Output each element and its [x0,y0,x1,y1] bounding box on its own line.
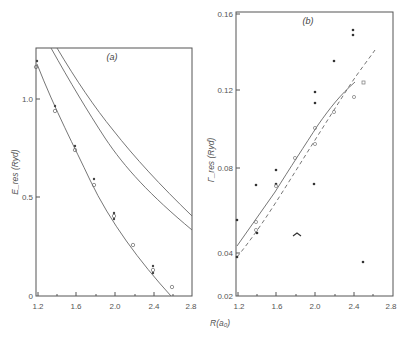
panel-a-xtick-label: 1.2 [32,302,44,311]
panel-b-y-ticks [236,14,240,253]
panel-b-ytick-label: 0.04 [217,249,233,258]
panel-b-xtick-label: 2.8 [385,302,397,311]
panel-a: 1.2 1.6 2.0 2.4 2.8 0 0.5 1.0 E_res (Ryd… [10,48,197,311]
panel-b-frame [236,12,393,296]
panel-b-open-markers [254,81,365,232]
panel-b-ytick-label: 0.12 [217,86,233,95]
panel-a-filled-markers [36,60,154,274]
panel-a-fit-curve [37,64,171,296]
panel-b-ytick-label: 0.02 [217,292,233,301]
panel-b: 1.2 1.6 2.0 2.4 2.8 0.02 0.04 0.08 0.12 … [206,10,397,311]
panel-a-ytick-label: 0 [29,292,34,301]
panel-a-xtick-label: 2.4 [148,302,160,311]
panel-b-xtick-label: 2.4 [348,302,360,311]
panel-b-caret-marker [293,233,301,236]
panel-a-y-axis-label: E_res (Ryd) [10,149,20,195]
panel-b-ytick-label: 0.16 [217,10,233,19]
panel-b-xtick-label: 1.2 [233,302,245,311]
x-axis-label: R(a₀) [210,318,230,328]
panel-b-filled-markers [236,29,365,264]
figure-canvas: 1.2 1.6 2.0 2.4 2.8 0 0.5 1.0 E_res (Ryd… [0,0,403,338]
panel-b-label: (b) [303,16,314,26]
panel-a-frame [36,48,192,296]
panel-b-dashed-curve [237,50,375,257]
panel-a-upper-curve-1 [51,48,192,230]
panel-b-xtick-label: 1.6 [271,302,283,311]
panel-b-x-ticks [238,292,373,296]
panel-a-xtick-label: 2.8 [185,302,197,311]
panel-a-ytick-label: 1.0 [22,95,34,104]
panel-a-y-ticks [36,99,40,197]
panel-a-upper-curve-2 [57,48,192,216]
panel-a-xtick-label: 1.6 [70,302,82,311]
panel-a-label: (a) [107,52,118,62]
panel-a-x-ticks [38,292,173,296]
panel-b-y-axis-label: Γ_res (Ryd) [206,138,216,183]
panel-b-xtick-label: 2.0 [309,302,321,311]
panel-a-xtick-label: 2.0 [109,302,121,311]
panel-a-ytick-label: 0.5 [22,193,34,202]
panel-b-ytick-label: 0.08 [217,164,233,173]
panel-a-open-markers [34,65,173,288]
